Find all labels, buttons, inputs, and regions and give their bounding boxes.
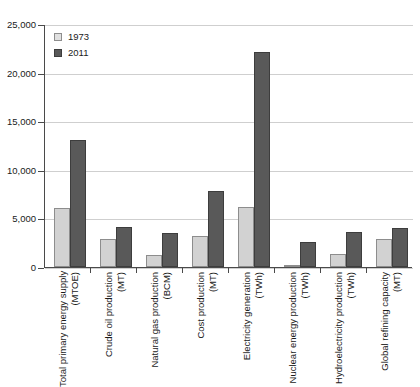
category-label-unit: (MTOE) xyxy=(69,272,81,387)
legend-label-2011: 2011 xyxy=(68,48,88,58)
x-axis-category-label: Total primary energy supply(MTOE) xyxy=(57,272,87,387)
category-label-name: Natural gas production xyxy=(149,272,161,387)
category-label-name: Nuclear energy production xyxy=(287,272,299,387)
gridline xyxy=(45,268,413,269)
y-axis-tick xyxy=(38,171,44,172)
x-axis-category-label: Global refining capacity(MT) xyxy=(379,272,409,387)
bar-group xyxy=(192,24,224,267)
x-axis-category-label: Cost production(MT) xyxy=(195,272,225,387)
bar-2011 xyxy=(208,191,224,267)
y-axis-tick xyxy=(38,268,44,269)
plot-area xyxy=(44,25,412,268)
x-axis-tick xyxy=(274,268,275,273)
legend-item-1973: 1973 xyxy=(54,30,89,44)
category-label-unit: (TWh) xyxy=(345,272,357,387)
bar-group xyxy=(238,24,270,267)
legend-swatch-2011 xyxy=(54,49,62,57)
category-label-name: Crude oil production xyxy=(103,272,115,387)
bar-2011 xyxy=(300,242,316,267)
y-axis-tick-label: 15,000 xyxy=(0,117,36,127)
bar-2011 xyxy=(70,140,86,267)
category-label-name: Cost production xyxy=(195,272,207,387)
bar-1973 xyxy=(330,254,346,267)
legend: 1973 2011 xyxy=(52,28,93,64)
bar-2011 xyxy=(254,52,270,267)
bar-1973 xyxy=(376,239,392,267)
bar-1973 xyxy=(192,236,208,267)
category-label-unit: (MT) xyxy=(115,272,127,387)
y-axis-tick xyxy=(38,74,44,75)
category-label-name: Electricity generation xyxy=(241,272,253,387)
legend-swatch-1973 xyxy=(54,33,62,41)
x-axis-tick xyxy=(228,268,229,273)
category-label-name: Hydroelectricity production xyxy=(333,272,345,387)
x-axis-category-label: Nuclear energy production(TWh) xyxy=(287,272,317,387)
x-axis-category-label: Crude oil production(MT) xyxy=(103,272,133,387)
y-axis-tick-label: 0 xyxy=(0,263,36,273)
y-axis-tick-label: 20,000 xyxy=(0,69,36,79)
x-axis-tick xyxy=(136,268,137,273)
category-label-name: Total primary energy supply xyxy=(57,272,69,387)
x-axis-tick xyxy=(90,268,91,273)
y-axis-tick-label: 5,000 xyxy=(0,214,36,224)
bar-1973 xyxy=(238,207,254,267)
bar-group xyxy=(284,24,316,267)
x-axis-tick xyxy=(366,268,367,273)
bar-1973 xyxy=(100,239,116,267)
y-axis-tick xyxy=(38,122,44,123)
category-label-unit: (TWh) xyxy=(253,272,265,387)
x-axis-tick xyxy=(182,268,183,273)
bar-2011 xyxy=(116,227,132,267)
x-axis-category-label: Natural gas production(BCM) xyxy=(149,272,179,387)
x-axis-labels: Total primary energy supply(MTOE)Crude o… xyxy=(44,272,412,387)
bar-group xyxy=(376,24,408,267)
bar-chart: 05,00010,00015,00020,00025,000 1973 2011… xyxy=(0,0,420,387)
legend-label-1973: 1973 xyxy=(68,32,89,42)
category-label-unit: (MT) xyxy=(391,272,403,387)
x-axis-category-label: Electricity generation(TWh) xyxy=(241,272,271,387)
x-axis-category-label: Hydroelectricity production(TWh) xyxy=(333,272,363,387)
category-label-unit: (MT) xyxy=(207,272,219,387)
bar-1973 xyxy=(54,208,70,267)
category-label-unit: (TWh) xyxy=(299,272,311,387)
bar-group xyxy=(146,24,178,267)
category-label-unit: (BCM) xyxy=(161,272,173,387)
bar-group xyxy=(100,24,132,267)
bar-1973 xyxy=(284,265,300,267)
bar-1973 xyxy=(146,255,162,267)
y-axis-labels: 05,00010,00015,00020,00025,000 xyxy=(0,0,36,387)
bar-2011 xyxy=(392,228,408,267)
legend-item-2011: 2011 xyxy=(54,46,89,60)
y-axis-tick xyxy=(38,219,44,220)
category-label-name: Global refining capacity xyxy=(379,272,391,387)
bar-2011 xyxy=(346,232,362,267)
y-axis-tick-label: 25,000 xyxy=(0,20,36,30)
y-axis-tick xyxy=(38,25,44,26)
bar-group xyxy=(330,24,362,267)
bar-2011 xyxy=(162,233,178,267)
y-axis-tick-label: 10,000 xyxy=(0,166,36,176)
x-axis-tick xyxy=(320,268,321,273)
